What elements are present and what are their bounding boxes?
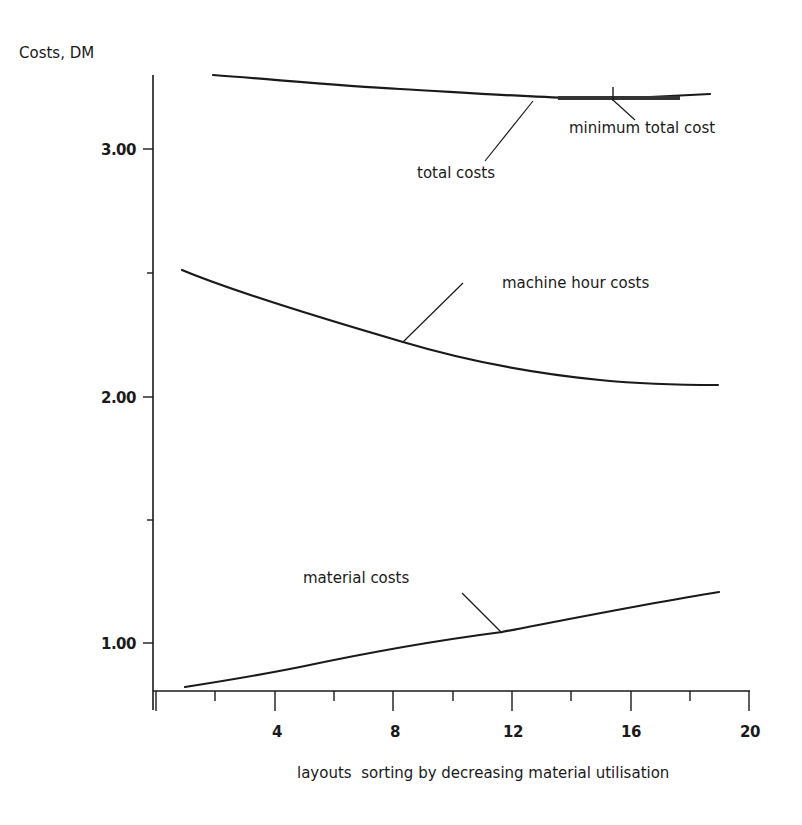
machine-hour-costs-label: machine hour costs bbox=[502, 274, 649, 292]
y-ticks bbox=[143, 149, 153, 643]
x-tick-label-4: 4 bbox=[272, 723, 282, 741]
y-tick-label-2: 2.00 bbox=[101, 389, 136, 407]
x-tick-label-8: 8 bbox=[390, 723, 400, 741]
machine-hour-costs-leader bbox=[403, 283, 463, 342]
x-tick-label-12: 12 bbox=[503, 723, 523, 741]
material-costs-label: material costs bbox=[303, 569, 409, 587]
cost-chart: Costs, DM 3.00 2.00 1.00 4 8 12 16 20 la… bbox=[0, 0, 802, 825]
x-tick-label-20: 20 bbox=[740, 723, 760, 741]
total-costs-label: total costs bbox=[417, 164, 495, 182]
minimum-leader bbox=[613, 100, 635, 120]
material-costs-curve bbox=[185, 592, 719, 687]
material-costs-leader bbox=[462, 593, 502, 633]
x-ticks bbox=[156, 691, 749, 711]
minimum-total-cost-label: minimum total cost bbox=[569, 119, 715, 137]
total-costs-curve bbox=[213, 75, 710, 98]
x-axis-title: layouts sorting by decreasing material u… bbox=[297, 764, 669, 782]
y-tick-label-3: 3.00 bbox=[101, 141, 136, 159]
x-tick-label-16: 16 bbox=[621, 723, 641, 741]
total-costs-leader bbox=[485, 101, 533, 161]
y-tick-label-1: 1.00 bbox=[101, 635, 136, 653]
y-axis-title: Costs, DM bbox=[19, 44, 94, 62]
